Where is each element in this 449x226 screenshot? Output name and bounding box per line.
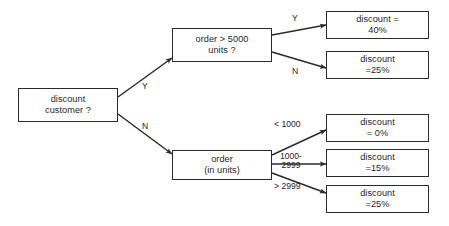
node-d0: discount = 0%	[326, 114, 429, 142]
label-lt1000: < 1000	[274, 120, 301, 129]
edge-root-yes	[118, 58, 172, 97]
decision-tree-diagram: discount customer ?order > 5000 units ?o…	[0, 0, 449, 226]
node-label: discount = 0%	[358, 117, 397, 138]
node-orderunits: order (in units)	[172, 150, 272, 180]
edge-o5000-no	[272, 52, 326, 68]
node-label: discount = 40%	[354, 14, 401, 35]
label-mid: 1000- 2999	[280, 152, 302, 170]
label-o5000-no: N	[292, 67, 298, 76]
node-label: order > 5000 units ?	[194, 34, 251, 55]
node-label: discount customer ?	[43, 94, 93, 115]
node-d25bottom: discount =25%	[326, 185, 429, 213]
edge-root-no	[118, 114, 172, 154]
label-o5000-yes: Y	[292, 14, 298, 23]
node-label: order (in units)	[202, 154, 242, 175]
node-label: discount =25%	[358, 188, 397, 209]
node-d40: discount = 40%	[326, 11, 429, 39]
label-root-yes: Y	[142, 82, 148, 91]
node-label: discount =15%	[358, 152, 397, 173]
label-gt2999: > 2999	[274, 182, 301, 191]
node-order5000: order > 5000 units ?	[172, 28, 272, 62]
label-root-no: N	[142, 122, 148, 131]
node-d25top: discount =25%	[326, 51, 429, 79]
node-label: discount =25%	[358, 54, 397, 75]
edge-o5000-yes	[272, 25, 326, 35]
node-d15: discount =15%	[326, 149, 429, 177]
node-root: discount customer ?	[18, 88, 118, 122]
